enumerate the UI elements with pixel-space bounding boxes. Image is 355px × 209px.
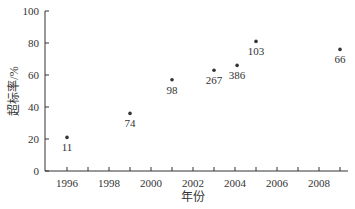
x-tick-label: 1996 (56, 177, 79, 189)
data-point-label: 66 (335, 53, 347, 65)
x-tick-label: 2006 (266, 177, 289, 189)
x-tick-label: 2002 (182, 177, 204, 189)
data-point-label: 386 (229, 69, 246, 81)
data-point (338, 48, 342, 52)
x-tick-label: 2008 (308, 177, 331, 189)
data-point-label: 98 (167, 84, 179, 96)
x-axis-title: 年份 (181, 190, 205, 204)
data-points: 11749826738610366 (62, 40, 346, 154)
data-point (254, 40, 258, 44)
data-point-label: 267 (206, 74, 223, 86)
y-tick-label: 40 (28, 101, 40, 113)
data-point (212, 68, 216, 72)
data-point-label: 74 (125, 117, 137, 129)
data-point (235, 64, 239, 68)
x-tick-label: 1998 (98, 177, 121, 189)
data-point (65, 136, 69, 140)
axes (45, 11, 348, 171)
y-axis-title: 超标率/% (6, 66, 21, 115)
y-tick-label: 100 (23, 5, 40, 17)
data-point (128, 112, 132, 116)
y-tick-label: 20 (28, 133, 40, 145)
x-tick-label: 2004 (224, 177, 247, 189)
data-point-label: 103 (248, 45, 265, 57)
x-tick-label: 2000 (140, 177, 163, 189)
data-point (170, 78, 174, 82)
scatter-chart: 020406080100 199619982000200220042006200… (0, 0, 355, 209)
data-point-label: 11 (62, 141, 73, 153)
x-axis-ticks: 1996199820002002200420062008 (56, 167, 340, 189)
y-tick-label: 80 (28, 37, 40, 49)
y-tick-label: 60 (28, 69, 40, 81)
y-tick-label: 0 (34, 165, 40, 177)
